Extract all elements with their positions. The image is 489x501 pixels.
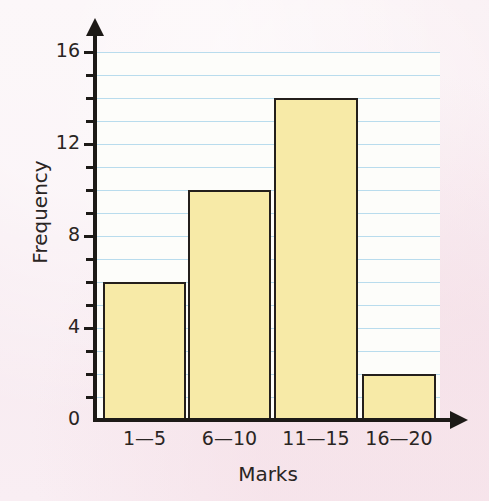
bars-layer [96, 52, 440, 420]
x-axis-title: Marks [96, 462, 440, 486]
y-axis-minor-tick [86, 373, 95, 376]
y-axis-line [93, 32, 97, 422]
x-axis-tick-label: 16—20 [339, 427, 459, 449]
y-axis-minor-tick [86, 212, 95, 215]
y-axis-major-tick [84, 143, 96, 146]
y-axis-minor-tick [86, 97, 95, 100]
bar [103, 282, 186, 420]
y-axis-major-tick [84, 235, 96, 238]
y-axis-minor-tick [86, 258, 95, 261]
y-axis-minor-tick [86, 304, 95, 307]
y-axis-tick-label: 16 [50, 39, 80, 61]
bar [188, 190, 271, 420]
y-axis-minor-tick [86, 281, 95, 284]
x-axis-line [93, 418, 453, 422]
bar [274, 98, 358, 420]
y-axis-title: Frequency [28, 152, 52, 272]
frequency-bar-chart: 0481216 1—56—1011—1516—20 Frequency Mark… [0, 0, 489, 501]
y-axis-major-tick [84, 51, 96, 54]
y-axis-minor-tick [86, 120, 95, 123]
y-axis-tick-label: 8 [50, 223, 80, 245]
y-axis-minor-tick [86, 396, 95, 399]
chart-page: 0481216 1—56—1011—1516—20 Frequency Mark… [0, 0, 489, 501]
y-axis-minor-tick [86, 189, 95, 192]
y-axis-minor-tick [86, 74, 95, 77]
bar [362, 374, 436, 420]
y-axis-tick-label: 12 [50, 131, 80, 153]
y-axis-tick-label: 0 [50, 407, 80, 429]
y-axis-arrow-icon [86, 18, 104, 36]
y-axis-tick-label: 4 [50, 315, 80, 337]
y-axis-minor-tick [86, 166, 95, 169]
y-axis-minor-tick [86, 350, 95, 353]
y-axis-major-tick [84, 327, 96, 330]
